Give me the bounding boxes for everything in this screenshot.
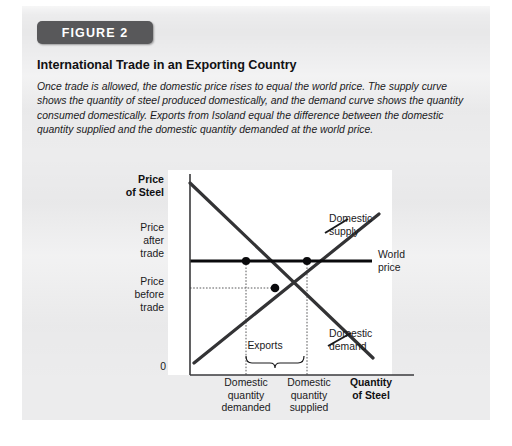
exports-brace: [246, 356, 304, 368]
y-tick-price-after-trade: Price after trade: [108, 221, 164, 261]
figure-title: International Trade in an Exporting Coun…: [37, 58, 467, 72]
exports-label: Exports: [223, 340, 307, 351]
point-equilibrium-before-trade: [271, 284, 280, 293]
figure-caption: Once trade is allowed, the domestic pric…: [37, 80, 467, 138]
x-axis-title: Quantity of Steel: [333, 377, 409, 402]
curve-label-world-price: World price: [378, 249, 438, 274]
y-tick-price-before-trade: Price before trade: [108, 275, 164, 315]
axis-origin-label: 0: [152, 361, 166, 372]
figure-number-banner: FIGURE 2: [37, 21, 153, 44]
curve-label-domestic-demand: Domestic demand: [329, 328, 409, 353]
figure-number-label: FIGURE 2: [62, 26, 128, 40]
point-domestic-quantity-supplied: [303, 257, 311, 265]
curve-label-domestic-supply: Domestic supply: [329, 213, 409, 238]
point-domestic-quantity-demanded: [242, 257, 250, 265]
y-axis-title: Price of Steel: [108, 173, 164, 198]
figure-panel: FIGURE 2 International Trade in an Expor…: [22, 6, 490, 420]
